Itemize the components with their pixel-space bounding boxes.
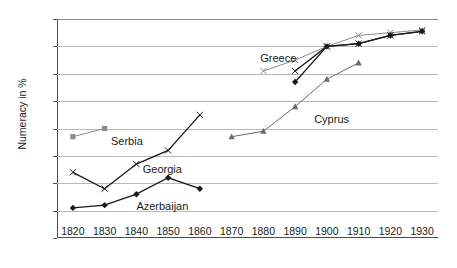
series-line xyxy=(73,129,105,137)
series-layer xyxy=(57,19,438,238)
data-point-x xyxy=(197,112,203,118)
series-label-cyprus: Cyprus xyxy=(314,113,349,125)
data-point-x xyxy=(102,186,108,192)
y-axis-title: Numeracy in % xyxy=(16,44,28,184)
y-tick-mark xyxy=(53,238,57,239)
data-point-diamond xyxy=(101,202,107,208)
series-serbia xyxy=(70,126,107,139)
data-point-x xyxy=(292,68,298,74)
y-tick-mark xyxy=(53,101,57,102)
data-point-square xyxy=(70,134,75,139)
series-label-azerbaijan: Azerbaijan xyxy=(136,200,188,212)
y-tick-mark xyxy=(53,183,57,184)
data-point-x xyxy=(70,169,76,175)
y-tick-mark xyxy=(53,46,57,47)
series-label-greece: Greece xyxy=(260,52,296,64)
y-tick-mark xyxy=(53,211,57,212)
series-georgia xyxy=(70,112,203,192)
data-point-triangle xyxy=(260,128,266,134)
plot-area: SerbiaGeorgiaAzerbaijanCyprusGreece xyxy=(57,19,438,238)
series-label-serbia: Serbia xyxy=(111,135,143,147)
data-point-diamond xyxy=(70,205,76,211)
y-tick-mark xyxy=(53,156,57,157)
numeracy-line-chart: Numeracy in % SerbiaGeorgiaAzerbaijanCyp… xyxy=(0,0,457,268)
y-tick-mark xyxy=(53,74,57,75)
series-azerbaijan-late xyxy=(292,28,425,85)
series-label-georgia: Georgia xyxy=(143,163,182,175)
data-point-x xyxy=(165,147,171,153)
data-point-triangle xyxy=(324,76,330,82)
series-line xyxy=(263,30,422,71)
data-point-diamond xyxy=(133,191,139,197)
data-point-diamond xyxy=(165,175,171,181)
y-tick-mark xyxy=(53,129,57,130)
data-point-diamond xyxy=(197,186,203,192)
data-point-square xyxy=(102,126,107,131)
y-tick-mark xyxy=(53,19,57,20)
data-point-x xyxy=(260,68,266,74)
series-line xyxy=(73,115,200,189)
data-point-x xyxy=(133,161,139,167)
x-tick-label: 1930 xyxy=(399,225,445,237)
data-point-triangle xyxy=(355,60,361,66)
series-line xyxy=(232,63,359,137)
